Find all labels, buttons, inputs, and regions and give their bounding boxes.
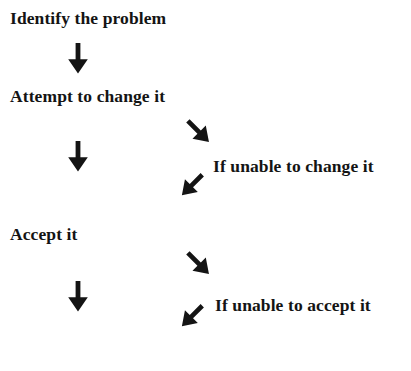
down-arrow-icon <box>66 43 90 74</box>
flow-step-accept-it: Accept it <box>10 226 77 244</box>
flowchart-canvas: Identify the problem Attempt to change i… <box>0 0 411 371</box>
down-arrow-icon <box>66 141 90 172</box>
flow-step-if-unable-to-accept-it: If unable to accept it <box>215 297 371 315</box>
flow-step-if-unable-to-change-it: If unable to change it <box>213 158 374 176</box>
flow-step-identify-the-problem: Identify the problem <box>10 10 166 28</box>
down-right-arrow-icon <box>183 248 214 279</box>
flow-step-attempt-to-change-it: Attempt to change it <box>10 88 165 106</box>
down-right-arrow-icon <box>183 116 214 147</box>
down-left-arrow-icon <box>177 301 207 331</box>
down-arrow-icon <box>66 281 90 312</box>
down-left-arrow-icon <box>177 170 207 200</box>
